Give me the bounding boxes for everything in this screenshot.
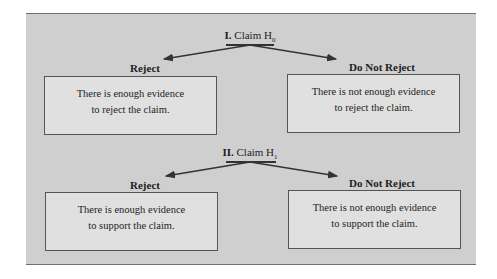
do-not-reject-label: Do Not Reject [327, 61, 437, 73]
section-numeral: II. [222, 146, 233, 158]
claim-h0-heading: I. Claim H0 [205, 29, 295, 44]
claim-underline [226, 44, 274, 46]
claim-h1-heading: II. Claim H1 [205, 146, 295, 161]
do-not-reject-h0-box: There is not enough evidence to reject t… [287, 74, 460, 133]
arrow-not-reject-2 [250, 162, 337, 176]
claim-subscript: 0 [272, 36, 276, 44]
reject-label: Reject [100, 62, 190, 74]
box-line: to support the claim. [46, 215, 217, 237]
arrow-not-reject-1 [250, 45, 336, 59]
claim-subscript: 1 [274, 153, 278, 161]
reject-label: Reject [100, 179, 190, 191]
section-numeral: I. [225, 29, 232, 41]
reject-h0-box: There is enough evidence to reject the c… [44, 76, 217, 135]
box-line: to reject the claim. [45, 99, 216, 121]
arrow-reject-1 [164, 45, 250, 59]
do-not-reject-label: Do Not Reject [327, 177, 437, 189]
do-not-reject-h1-box: There is not enough evidence to support … [288, 190, 461, 249]
claim-text: Claim H [236, 146, 274, 158]
arrow-reject-2 [166, 162, 250, 176]
reject-h1-box: There is enough evidence to support the … [45, 192, 218, 251]
claim-text: Claim H [234, 29, 272, 41]
claim-underline [226, 161, 276, 163]
